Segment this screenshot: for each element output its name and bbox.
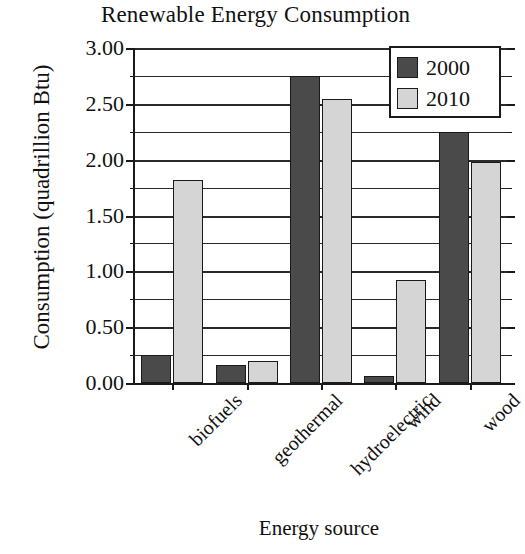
y-tick-minor — [130, 355, 135, 356]
y-tick-major-right — [507, 216, 515, 218]
y-tick-minor-right — [507, 299, 512, 300]
y-tick-minor-right — [507, 132, 512, 133]
legend-swatch-2000-icon — [397, 57, 418, 78]
y-tick-major — [126, 160, 135, 162]
y-tick-label: 1.50 — [0, 205, 124, 227]
bar-wood-2000 — [439, 132, 469, 383]
y-tick-label: 2.50 — [0, 93, 124, 115]
y-tick-major — [126, 48, 135, 50]
y-tick-minor-right — [507, 76, 512, 77]
bar-biofuels-2000 — [141, 355, 171, 383]
bar-hydroelectric-2010 — [322, 99, 352, 383]
y-tick-label: 3.00 — [0, 37, 124, 59]
y-tick-major — [126, 104, 135, 106]
legend-swatch-2010-icon — [397, 88, 418, 109]
y-tick-major-right — [507, 104, 515, 106]
legend: 2000 2010 — [389, 46, 501, 118]
x-axis-tick-labels: biofuelsgeothermalhydroelectricwindwood — [133, 383, 505, 513]
y-tick-minor — [130, 243, 135, 244]
y-tick-minor-right — [507, 188, 512, 189]
bar-hydroelectric-2000 — [290, 76, 320, 383]
y-tick-major — [126, 271, 135, 273]
y-tick-major — [126, 216, 135, 218]
legend-label-2000: 2000 — [426, 57, 470, 79]
legend-item-2010: 2010 — [397, 83, 493, 114]
bar-geothermal-2010 — [248, 361, 278, 383]
y-tick-minor — [130, 299, 135, 300]
y-tick-label: 0.00 — [0, 372, 124, 394]
legend-label-2010: 2010 — [426, 88, 470, 110]
y-tick-minor — [130, 132, 135, 133]
y-tick-major — [126, 327, 135, 329]
y-tick-minor-right — [507, 243, 512, 244]
x-tick-label-biofuels: biofuels — [185, 389, 247, 451]
y-tick-minor — [130, 76, 135, 77]
y-tick-major-right — [507, 327, 515, 329]
y-tick-major-right — [507, 383, 515, 385]
bar-wind-2000 — [364, 376, 394, 383]
bar-wind-2010 — [396, 280, 426, 383]
y-tick-minor-right — [507, 355, 512, 356]
x-tick-label-wood: wood — [477, 389, 525, 437]
x-axis-title: Energy source — [133, 516, 505, 541]
y-tick-minor — [130, 188, 135, 189]
y-axis-tick-labels: 0.000.501.001.502.002.503.00 — [0, 0, 124, 554]
bar-geothermal-2000 — [216, 365, 246, 383]
bar-wood-2010 — [471, 162, 501, 383]
y-tick-label: 0.50 — [0, 316, 124, 338]
y-tick-label: 1.00 — [0, 260, 124, 282]
y-tick-major-right — [507, 48, 515, 50]
legend-item-2000: 2000 — [397, 52, 493, 83]
bar-biofuels-2010 — [173, 180, 203, 383]
y-tick-major-right — [507, 271, 515, 273]
y-tick-major-right — [507, 160, 515, 162]
y-tick-label: 2.00 — [0, 149, 124, 171]
x-tick-label-geothermal: geothermal — [267, 389, 347, 469]
